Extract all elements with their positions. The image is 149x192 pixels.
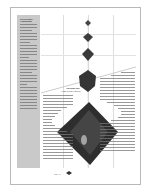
polyhedron-icon [83,33,93,42]
article-heading: The Right Stuff [56,87,90,89]
body-text-left [43,95,73,161]
polyhedron-icon [82,48,94,61]
page-number: Page 12 [54,173,60,175]
polyhedron-footer-icon [66,171,72,175]
body-text-right [100,72,135,153]
polyhedron-icon [85,20,91,26]
article-subheading: Form Follows Function [52,90,90,92]
